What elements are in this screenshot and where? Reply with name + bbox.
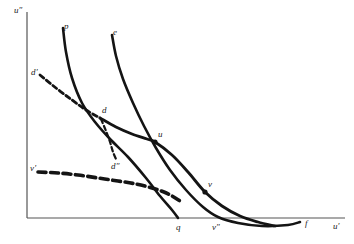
figure-container: u″ u′ ped′v′d″f duvqv″ — [0, 0, 354, 244]
curve-label-e: e — [113, 28, 117, 37]
axes-group — [27, 12, 345, 218]
curve-label-f: f — [305, 219, 308, 228]
curve-label-vp: v′ — [30, 164, 36, 173]
diagram-canvas — [0, 0, 354, 244]
curve-label-dp: d′ — [31, 68, 38, 77]
point-label-q: q — [176, 223, 181, 232]
curve-d-prime-line-dashed — [40, 75, 100, 118]
curve-label-p: p — [64, 22, 69, 31]
y-axis-label: u″ — [14, 6, 22, 15]
point-marker-u — [152, 139, 157, 144]
curve-label-dpp: d″ — [111, 162, 120, 171]
point-label-v: v — [208, 180, 212, 189]
curve-v-prime — [38, 172, 180, 201]
point-marker-v — [202, 189, 207, 194]
point-label-u: u — [158, 130, 163, 139]
point-label-d: d — [102, 106, 107, 115]
curve-d-prime-line-solid — [100, 118, 275, 226]
point-label-vpp: v″ — [212, 223, 220, 232]
x-axis-label: u′ — [333, 222, 339, 231]
curves-group — [38, 28, 300, 226]
curve-e — [112, 35, 300, 226]
